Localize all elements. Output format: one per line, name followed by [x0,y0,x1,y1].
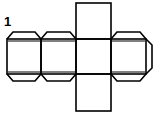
face-1 [7,39,41,74]
cube-net-diagram [0,0,153,115]
tab-face-4-top [111,32,146,39]
face-bottom [76,74,111,111]
tab-face-2-bottom [41,74,76,81]
face-3 [76,39,111,74]
tab-face-2-top [41,32,76,39]
face-4 [111,39,146,74]
face-top [76,3,111,39]
tab-face-1-bottom [7,74,41,81]
tab-face-4-right [146,39,152,74]
tab-face-4-bottom [111,74,146,81]
face-2 [41,39,76,74]
tab-face-1-top [7,32,41,39]
